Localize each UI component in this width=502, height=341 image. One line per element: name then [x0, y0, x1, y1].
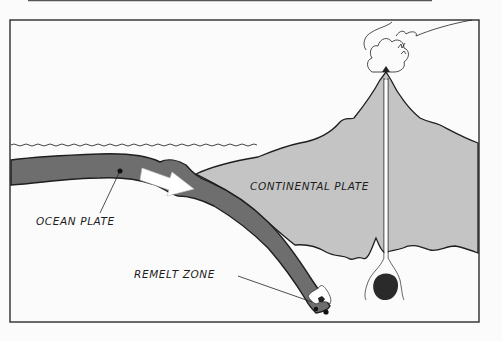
ocean-plate-label: OCEAN PLATE — [36, 215, 115, 227]
remelt-zone-label: REMELT ZONE — [134, 268, 215, 280]
subduction-diagram: OCEAN PLATE CONTINENTAL PLATE REMELT ZON… — [0, 0, 502, 341]
continental-plate-label: CONTINENTAL PLATE — [250, 180, 369, 192]
ocean-plate-marker — [118, 169, 123, 174]
